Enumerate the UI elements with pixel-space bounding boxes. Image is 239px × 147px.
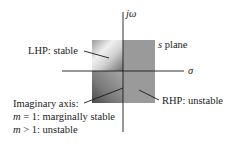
jw-axis-label: jω [126, 8, 136, 20]
imag-axis-note-line1: Imaginary axis: [13, 98, 79, 110]
plane-word: plane [162, 39, 187, 50]
s-plane-diagram: jω σ s plane LHP: stable RHP: unstable I… [0, 0, 239, 147]
imag-axis-note-line2: m = 1: marginally stable [13, 111, 115, 123]
sigma-axis-label: σ [188, 65, 193, 77]
imag-axis-note-line3: m > 1: unstable [13, 124, 78, 136]
rhp-label: RHP: unstable [162, 95, 223, 107]
unstable-text: > 1: unstable [21, 124, 78, 135]
m-var: m [13, 111, 21, 122]
rhp-region [123, 40, 155, 103]
m-var: m [13, 124, 21, 135]
lhp-label: LHP: stable [28, 45, 78, 57]
s-plane-label: s plane [158, 39, 187, 51]
lhp-region-upper [92, 40, 123, 71]
marginal-text: = 1: marginally stable [21, 111, 115, 122]
